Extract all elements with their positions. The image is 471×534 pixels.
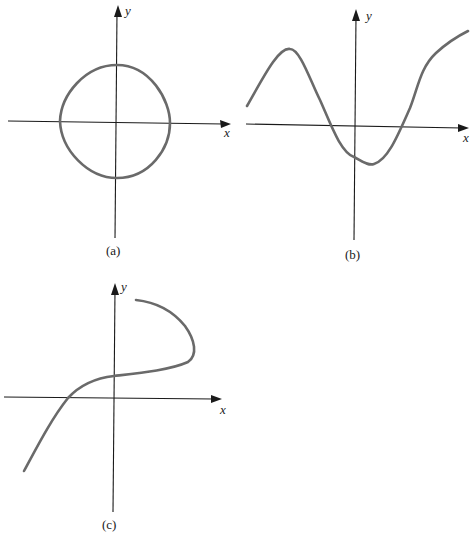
panel-caption: (c) [102, 517, 116, 532]
panel-caption: (b) [345, 247, 360, 262]
y-axis-arrow-icon [114, 5, 122, 17]
x-axis-label: x [219, 402, 226, 417]
x-axis-label: x [223, 125, 230, 140]
figure-canvas: x y (a) x y (b) x y (c) [0, 0, 471, 534]
x-axis [246, 124, 462, 128]
x-axis [4, 397, 214, 399]
x-axis-label: x [462, 130, 469, 145]
panel-a: x y (a) [8, 3, 231, 258]
panel-c: x y (c) [4, 279, 226, 532]
y-axis-label: y [119, 279, 127, 294]
y-axis-label: y [364, 8, 372, 23]
y-axis [115, 12, 117, 238]
panel-caption: (a) [106, 243, 120, 258]
y-axis-arrow-icon [111, 283, 119, 295]
wave-curve [247, 31, 468, 164]
s-curve [24, 300, 194, 471]
y-axis [113, 290, 115, 512]
y-axis-label: y [123, 3, 131, 18]
panel-b: x y (b) [246, 8, 469, 262]
y-axis [354, 16, 356, 240]
y-axis-arrow-icon [352, 9, 360, 21]
